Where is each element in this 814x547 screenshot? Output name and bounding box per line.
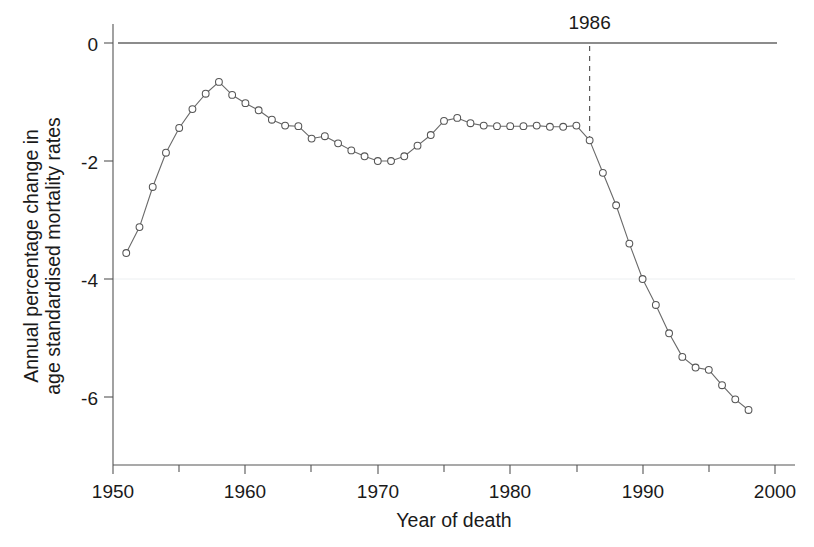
data-point [308, 135, 315, 142]
data-point [374, 158, 381, 165]
data-point [229, 92, 236, 99]
data-point [732, 396, 739, 403]
data-point [401, 153, 408, 160]
series-polyline [126, 82, 748, 410]
data-point [599, 169, 606, 176]
x-tick-label-1970: 1970 [357, 481, 399, 502]
series-marker-group [123, 79, 752, 414]
data-point [467, 120, 474, 127]
x-tick-label-1960: 1960 [224, 481, 266, 502]
data-point [639, 276, 646, 283]
year-1986-label: 1986 [568, 12, 610, 33]
data-point [414, 142, 421, 149]
data-point [123, 250, 130, 257]
x-axis-title: Year of death [396, 509, 511, 531]
data-point [692, 364, 699, 371]
data-point [216, 79, 223, 86]
x-axis: 1950 1960 1970 1980 1990 2000 [92, 465, 796, 502]
y-axis-title-line2: age standardised mortality rates [42, 117, 64, 395]
data-point [705, 366, 712, 373]
data-point [520, 123, 527, 130]
data-point [202, 90, 209, 97]
data-point [666, 330, 673, 337]
data-point [533, 122, 540, 129]
series-annual-percentage-change [123, 79, 752, 414]
data-point [652, 302, 659, 309]
data-point [335, 140, 342, 147]
data-point [189, 106, 196, 113]
data-point [454, 115, 461, 122]
y-axis-title: Annual percentage change in age standard… [20, 117, 64, 395]
data-point [441, 117, 448, 124]
data-point [719, 382, 726, 389]
y-axis-title-line1: Annual percentage change in [20, 129, 42, 383]
data-point [388, 158, 395, 165]
data-point [547, 123, 554, 130]
data-point [586, 137, 593, 144]
data-point [282, 122, 289, 129]
line-chart: 0 -2 -4 -6 1950 1960 1970 1980 1990 2000 [0, 0, 814, 547]
y-tick-label-minus6: -6 [81, 388, 98, 409]
y-tick-label-minus2: -2 [81, 152, 98, 173]
data-point [149, 184, 156, 191]
data-point [321, 133, 328, 140]
x-tick-label-2000: 2000 [754, 481, 796, 502]
y-axis: 0 -2 -4 -6 [81, 24, 113, 465]
annotation-1986: 1986 [568, 12, 610, 140]
data-point [136, 224, 143, 231]
data-point [494, 123, 501, 130]
data-point [613, 202, 620, 209]
x-tick-label-1990: 1990 [622, 481, 664, 502]
data-point [626, 240, 633, 247]
y-tick-label-minus4: -4 [81, 270, 98, 291]
x-tick-label-1980: 1980 [489, 481, 531, 502]
data-point [255, 107, 262, 114]
data-point [507, 123, 514, 130]
data-point [560, 123, 567, 130]
chart-figure: 0 -2 -4 -6 1950 1960 1970 1980 1990 2000 [0, 0, 814, 547]
data-point [176, 125, 183, 132]
data-point [361, 153, 368, 160]
data-point [163, 149, 170, 156]
data-point [679, 353, 686, 360]
data-point [427, 132, 434, 139]
data-point [573, 122, 580, 129]
data-point [480, 122, 487, 129]
data-point [295, 123, 302, 130]
data-point [745, 407, 752, 414]
data-point [348, 147, 355, 154]
y-tick-label-0: 0 [87, 34, 98, 55]
x-tick-label-1950: 1950 [92, 481, 134, 502]
data-point [242, 100, 249, 107]
data-point [268, 116, 275, 123]
